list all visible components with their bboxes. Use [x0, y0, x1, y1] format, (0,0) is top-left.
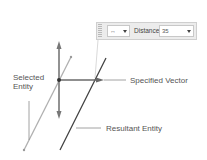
chevron-down-icon: [123, 30, 127, 33]
distance-value: 35: [162, 27, 169, 36]
specified-vector-label: Specified Vector: [130, 76, 188, 85]
selected-entity-label-line2: Entity: [13, 82, 44, 91]
resultant-entity-label: Resultant Entity: [106, 124, 162, 133]
selected-entity-label-line1: Selected: [13, 73, 44, 82]
specified-vector-arrow: [57, 78, 104, 83]
offset-toolbar: ↔ Distance 35: [96, 22, 197, 40]
selected-entity-endpoint: [23, 149, 25, 151]
chevron-down-icon[interactable]: [187, 30, 191, 33]
toolbar-grip-handle[interactable]: [98, 24, 102, 38]
selected-entity-line: [24, 57, 71, 150]
distance-input[interactable]: 35: [159, 25, 194, 37]
selected-entity-endpoint: [70, 56, 72, 58]
double-arrow-icon: ↔: [110, 27, 116, 36]
selected-entity-label: Selected Entity: [13, 73, 44, 91]
resultant-entity-line: [60, 58, 106, 150]
toolbar-leader-line: [95, 40, 98, 78]
direction-dropdown[interactable]: ↔: [107, 25, 130, 37]
distance-label: Distance: [134, 26, 159, 36]
